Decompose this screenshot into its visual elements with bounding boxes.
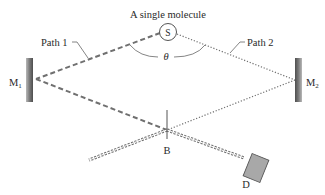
- path-1-label: Path 1: [41, 37, 68, 48]
- source-label: S: [165, 28, 170, 38]
- interferometer-diagram: A single molecule S θ: [0, 0, 325, 195]
- mirror-m2: M2: [295, 58, 319, 102]
- theta-label: θ: [163, 51, 168, 62]
- diagram-title: A single molecule: [130, 9, 206, 20]
- molecule-source: S: [160, 24, 177, 41]
- path-1-label-group: Path 1: [41, 37, 88, 58]
- mirror-m2-label: M2: [306, 77, 319, 90]
- path-2-beam: [167, 34, 295, 130]
- detector: D: [242, 154, 269, 190]
- beam-splitter: B: [163, 110, 170, 156]
- path-2-label-group: Path 2: [230, 37, 274, 53]
- detector-label: D: [242, 179, 250, 190]
- angle-theta: θ: [130, 45, 205, 62]
- path-2-label: Path 2: [247, 37, 274, 48]
- mirror-m1: M1: [9, 58, 33, 102]
- mirror-m1-label: M1: [9, 77, 22, 90]
- beam-splitter-label: B: [163, 145, 170, 156]
